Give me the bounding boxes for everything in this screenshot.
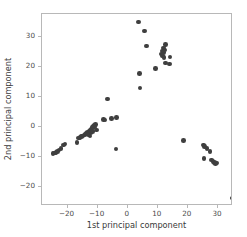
plot-data-area bbox=[42, 14, 231, 204]
data-point bbox=[208, 149, 213, 154]
data-point bbox=[162, 55, 167, 60]
x-axis-label: 1st principal component bbox=[41, 220, 232, 230]
x-tick-label: 30 bbox=[202, 209, 232, 218]
y-tick-label: 20 bbox=[13, 61, 35, 70]
data-point bbox=[136, 20, 141, 25]
data-point bbox=[137, 71, 142, 76]
x-tick-mark bbox=[217, 205, 218, 208]
data-point bbox=[94, 128, 99, 133]
data-point bbox=[202, 156, 207, 161]
data-point bbox=[103, 118, 108, 123]
x-tick-mark bbox=[67, 205, 68, 208]
x-tick-label: −10 bbox=[82, 209, 112, 218]
y-tick-label: −10 bbox=[13, 151, 35, 160]
x-tick-label: 0 bbox=[112, 209, 142, 218]
x-tick-label: −20 bbox=[52, 209, 82, 218]
y-tick-label: 10 bbox=[13, 91, 35, 100]
x-tick-mark bbox=[187, 205, 188, 208]
data-point bbox=[167, 62, 172, 67]
x-tick-mark bbox=[127, 205, 128, 208]
x-tick-label: 20 bbox=[172, 209, 202, 218]
data-point bbox=[142, 29, 147, 34]
data-point bbox=[153, 66, 158, 71]
data-point bbox=[230, 196, 231, 201]
data-point bbox=[144, 44, 149, 49]
data-point bbox=[51, 151, 56, 156]
data-point bbox=[138, 86, 143, 91]
y-tick-label: 30 bbox=[13, 31, 35, 40]
y-axis-label: 2nd principal component bbox=[2, 13, 14, 205]
data-point bbox=[181, 138, 186, 143]
data-point bbox=[105, 97, 110, 102]
data-point bbox=[75, 140, 80, 145]
x-tick-mark bbox=[97, 205, 98, 208]
data-point bbox=[214, 161, 219, 166]
data-point bbox=[114, 147, 119, 152]
x-tick-label: 10 bbox=[142, 209, 172, 218]
data-point bbox=[168, 55, 173, 60]
y-axis-label-text: 2nd principal component bbox=[3, 58, 13, 160]
scatter-plot-figure: 2nd principal component 3020100−10−20 −2… bbox=[0, 0, 247, 237]
y-tick-label: 0 bbox=[13, 121, 35, 130]
x-tick-mark bbox=[157, 205, 158, 208]
plot-axes-frame bbox=[41, 13, 232, 205]
data-point bbox=[114, 115, 119, 120]
y-tick-label: −20 bbox=[13, 181, 35, 190]
